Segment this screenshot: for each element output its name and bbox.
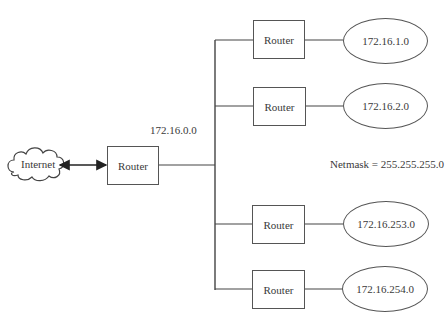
subnet-network-label: 172.16.1.0 xyxy=(362,35,409,47)
subnet-router-label: Router xyxy=(264,34,294,46)
subnet-router-2: Router xyxy=(253,87,306,126)
main-router-label: Router xyxy=(118,160,148,172)
subnet-network-1: 172.16.1.0 xyxy=(343,18,428,64)
subnet-network-3: 172.16.253.0 xyxy=(343,201,429,247)
backbone-network-label: 172.16.0.0 xyxy=(150,124,197,136)
subnet-router-4: Router xyxy=(252,270,305,309)
subnet-router-label: Router xyxy=(265,101,295,113)
main-router: Router xyxy=(107,146,159,185)
subnet-network-4: 172.16.254.0 xyxy=(342,266,428,312)
internet-label: Internet xyxy=(21,158,55,170)
subnet-network-label: 172.16.254.0 xyxy=(356,283,414,295)
subnet-router-1: Router xyxy=(253,20,305,59)
network-diagram: Internet Router 172.16.0.0 Netmask = 255… xyxy=(0,0,448,325)
subnet-network-2: 172.16.2.0 xyxy=(343,83,428,129)
netmask-label: Netmask = 255.255.255.0 xyxy=(330,158,444,170)
subnet-network-label: 172.16.253.0 xyxy=(357,218,415,230)
subnet-router-3: Router xyxy=(252,205,305,244)
subnet-router-label: Router xyxy=(264,219,294,231)
subnet-router-label: Router xyxy=(264,284,294,296)
subnet-network-label: 172.16.2.0 xyxy=(362,100,409,112)
